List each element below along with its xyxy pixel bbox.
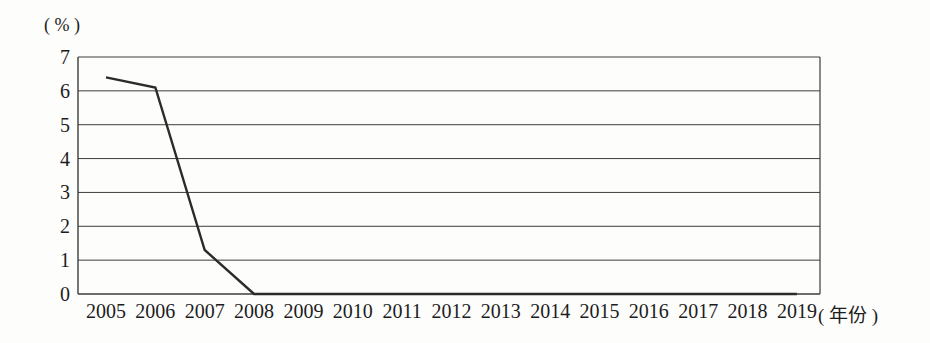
y-tick-label: 7	[60, 46, 70, 68]
x-tick-label: 2018	[728, 300, 768, 322]
y-tick-label: 4	[60, 148, 70, 170]
line-chart-figure: 0123456720052006200720082009201020112012…	[0, 0, 930, 343]
x-tick-label: 2008	[234, 300, 274, 322]
y-tick-label: 6	[60, 80, 70, 102]
x-tick-label: 2009	[283, 300, 323, 322]
y-tick-label: 0	[60, 283, 70, 305]
x-tick-label: 2017	[678, 300, 718, 322]
y-tick-label: 3	[60, 181, 70, 203]
data-series-line	[106, 77, 797, 294]
y-axis-unit-label: ( % )	[44, 15, 80, 36]
y-tick-label: 1	[60, 249, 70, 271]
x-tick-label: 2019	[777, 300, 817, 322]
y-tick-label: 2	[60, 215, 70, 237]
x-tick-label: 2016	[629, 300, 669, 322]
x-tick-label: 2013	[481, 300, 521, 322]
x-axis-unit-label: ( 年份 )	[818, 300, 878, 327]
x-tick-label: 2011	[382, 300, 421, 322]
x-tick-label: 2007	[185, 300, 225, 322]
x-tick-label: 2010	[333, 300, 373, 322]
x-tick-label: 2015	[580, 300, 620, 322]
x-tick-label: 2012	[431, 300, 471, 322]
x-tick-label: 2006	[135, 300, 175, 322]
x-tick-label: 2005	[86, 300, 126, 322]
x-tick-label: 2014	[530, 300, 570, 322]
chart-plot-area: 0123456720052006200720082009201020112012…	[0, 0, 930, 343]
y-tick-label: 5	[60, 114, 70, 136]
